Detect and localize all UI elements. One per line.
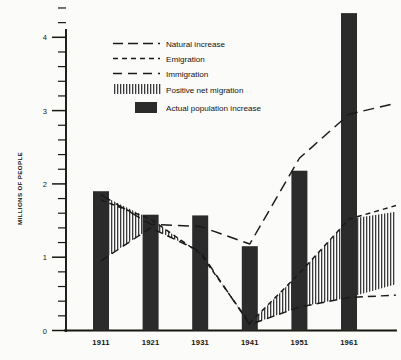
x-tick-label-1961: 1961 [340, 338, 358, 347]
legend-item-positive-net-migration: Positive net migration [113, 84, 243, 95]
legend-swatch-solid-black [135, 102, 157, 113]
legend-item-actual-population-increase: Actual population increase [135, 102, 261, 113]
x-tick-label-1951: 1951 [291, 338, 309, 347]
legend-label-positive-net-migration: Positive net migration [166, 86, 243, 95]
x-tick-label-1931: 1931 [191, 338, 209, 347]
bar-1961 [341, 13, 357, 330]
legend-swatch-vertical-hatch [113, 84, 161, 94]
y-tick-label: 0 [43, 327, 47, 336]
bar-1931 [192, 215, 208, 330]
legend-label-immigration: Immigration [166, 70, 208, 79]
x-tick-label-1941: 1941 [241, 338, 259, 347]
y-tick-label: 3 [43, 107, 47, 116]
y-tick-label: 1 [43, 253, 47, 262]
legend-label-natural-increase: Natural increase [166, 40, 225, 49]
x-tick-label-1921: 1921 [142, 338, 160, 347]
bar-1941 [242, 246, 258, 330]
y-axis-title: MILLIONS OF PEOPLE [16, 152, 23, 225]
y-tick-label: 2 [43, 180, 47, 189]
y-tick-label: 4 [43, 33, 47, 42]
population-increase-chart: MILLIONS OF PEOPLE 01234 191119211931194… [0, 0, 401, 360]
x-tick-label-1911: 1911 [92, 338, 110, 347]
chart-svg: MILLIONS OF PEOPLE 01234 191119211931194… [0, 0, 401, 360]
legend-label-emigration: Emigration [166, 55, 205, 64]
legend-label-actual-population-increase: Actual population increase [166, 104, 261, 113]
